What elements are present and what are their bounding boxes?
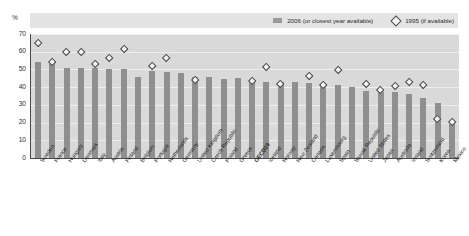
diamond-marker <box>333 66 342 75</box>
y-axis: 010203040506070 <box>0 34 26 158</box>
x-axis-labels: SwedenFranceHungaryDenmarkItalyAustriaFi… <box>30 160 458 234</box>
bar <box>349 87 355 158</box>
y-axis-tick-label: 10 <box>0 137 26 144</box>
diamond-marker <box>305 72 314 81</box>
bar <box>392 92 398 158</box>
diamond-marker <box>405 77 414 86</box>
diamond-marker <box>34 38 43 47</box>
legend-diamond-label: 1995 (if available) <box>405 17 454 24</box>
y-axis-tick-label: 60 <box>0 48 26 55</box>
diamond-marker <box>419 81 428 90</box>
y-axis-tick-label: 30 <box>0 101 26 108</box>
chart-legend: 2006 (or closest year available) 1995 (i… <box>30 13 458 28</box>
chart-container: % 2006 (or closest year available) 1995 … <box>0 0 469 236</box>
diamond-marker <box>105 53 114 62</box>
diamond-marker <box>262 63 271 72</box>
bar <box>106 69 112 158</box>
bar <box>121 69 127 158</box>
y-axis-tick-label: 70 <box>0 31 26 38</box>
diamond-marker <box>390 82 399 91</box>
bar <box>35 62 41 158</box>
y-axis-unit-label: % <box>12 14 18 21</box>
y-axis-tick-label: 50 <box>0 66 26 73</box>
legend-diamond-marker-icon <box>390 15 401 26</box>
legend-bar-swatch-icon <box>273 18 282 23</box>
diamond-marker <box>62 47 71 56</box>
gridline <box>31 34 459 35</box>
y-axis-tick-label: 20 <box>0 119 26 126</box>
bar <box>64 68 70 158</box>
y-axis-tick-label: 0 <box>0 155 26 162</box>
gridline <box>31 52 459 53</box>
legend-bar-label: 2006 (or closest year available) <box>287 17 373 24</box>
diamond-marker <box>162 53 171 62</box>
diamond-marker <box>76 48 85 57</box>
plot-area <box>30 34 459 159</box>
y-axis-tick-label: 40 <box>0 84 26 91</box>
